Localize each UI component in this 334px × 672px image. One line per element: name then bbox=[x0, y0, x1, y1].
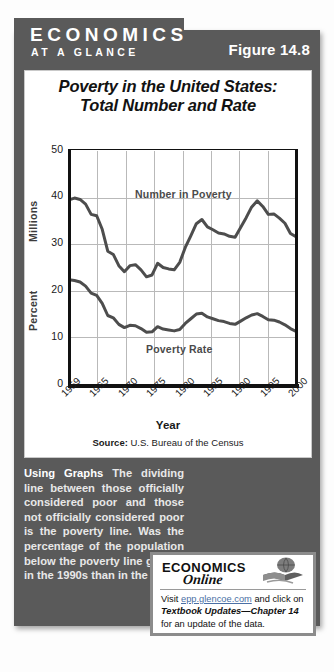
y-tick-50: 50 bbox=[37, 144, 63, 155]
plot-border-right bbox=[295, 149, 298, 387]
y-tick-40: 40 bbox=[37, 190, 63, 201]
line-number-in-poverty bbox=[69, 198, 296, 277]
chart-title: Poverty in the United States: Total Numb… bbox=[25, 77, 311, 115]
series-label-number-in-poverty: Number in Poverty bbox=[135, 188, 232, 200]
source-prefix: Source: bbox=[92, 437, 127, 448]
y-tick-30: 30 bbox=[37, 237, 63, 248]
chart-title-line2: Total Number and Rate bbox=[25, 96, 311, 115]
y-tick-20: 20 bbox=[37, 284, 63, 295]
figure-page: ECONOMICS AT A GLANCE Figure 14.8 Povert… bbox=[0, 0, 334, 672]
y-axis-label-percent: Percent bbox=[27, 267, 39, 331]
online-text-before: Visit bbox=[161, 594, 181, 604]
online-instructions: Visit epp.glencoe.com and click on Textb… bbox=[161, 593, 307, 630]
y-axis-label-millions: Millions bbox=[27, 176, 39, 242]
line-poverty-rate bbox=[69, 280, 296, 333]
plot-area: Number in Poverty Poverty Rate bbox=[69, 151, 296, 384]
banner-title-economics: ECONOMICS bbox=[30, 25, 188, 44]
online-text-end: for an update of the data. bbox=[161, 619, 265, 629]
figure-number-label: Figure 14.8 bbox=[229, 41, 310, 58]
chart-card: Poverty in the United States: Total Numb… bbox=[24, 70, 312, 458]
source-text: U.S. Bureau of the Census bbox=[128, 437, 244, 448]
y-tick-10: 10 bbox=[37, 331, 63, 342]
book-globe-icon bbox=[259, 557, 305, 587]
x-axis-title: Year bbox=[25, 419, 311, 431]
economics-online-box[interactable]: ECONOMICS Online Visit epp.glencoe.com a… bbox=[150, 552, 316, 636]
y-axis-line bbox=[68, 149, 71, 387]
online-brand-online: Online bbox=[182, 572, 223, 588]
banner-subtitle-at-a-glance: AT A GLANCE bbox=[31, 47, 139, 58]
chart-source: Source: U.S. Bureau of the Census bbox=[25, 437, 311, 448]
caption-lead: Using Graphs bbox=[24, 467, 103, 479]
series-label-poverty-rate: Poverty Rate bbox=[146, 343, 213, 355]
online-text-after: and click on bbox=[252, 594, 304, 604]
online-italic-ref: Textbook Updates—Chapter 14 bbox=[161, 606, 299, 616]
online-divider bbox=[160, 589, 306, 590]
chart-title-line1: Poverty in the United States: bbox=[25, 77, 311, 96]
plot-border-top bbox=[68, 149, 298, 150]
online-link[interactable]: epp.glencoe.com bbox=[181, 594, 252, 604]
y-tick-0: 0 bbox=[37, 378, 63, 389]
